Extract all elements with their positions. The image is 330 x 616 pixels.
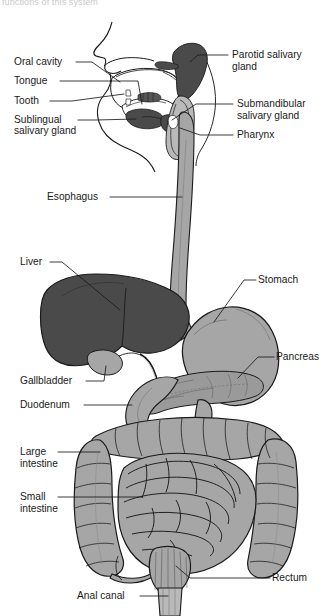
label-submandibular-line1: Submandibular <box>237 98 306 109</box>
label-sublingual-line1: Sublingual <box>14 114 62 125</box>
label-anal-canal: Anal canal <box>77 590 125 601</box>
label-stomach: Stomach <box>258 274 298 285</box>
label-parotid-line1: Parotid salivary <box>232 49 303 60</box>
liver-shape <box>41 274 190 366</box>
label-tongue: Tongue <box>14 75 48 86</box>
label-large-intestine-line1: Large <box>20 446 46 457</box>
gallbladder-group <box>87 350 142 375</box>
neck-back-outline <box>196 148 202 166</box>
parotid-salivary-gland-shape <box>172 43 207 99</box>
tooth-upper-shape <box>126 90 131 96</box>
label-oral-cavity: Oral cavity <box>14 56 63 67</box>
anatomy-illustration: Oral cavity Tongue Tooth Sublingual sali… <box>0 0 330 616</box>
label-liver: Liver <box>20 256 43 267</box>
cystic-duct-line <box>119 353 142 356</box>
label-duodenum: Duodenum <box>20 399 70 410</box>
upper-lip-outline <box>104 58 154 66</box>
label-sublingual-line2: salivary gland <box>14 125 77 136</box>
label-pharynx: Pharynx <box>237 129 274 140</box>
label-rectum: Rectum <box>272 572 307 583</box>
descending-colon-shape <box>74 440 123 577</box>
liver-group <box>41 274 190 366</box>
label-small-intestine-line1: Small <box>20 491 45 502</box>
label-parotid-line2: gland <box>232 61 257 72</box>
digestive-system-figure: functions of this system <box>0 0 330 616</box>
label-pancreas: Pancreas <box>276 351 319 362</box>
label-gallbladder: Gallbladder <box>20 375 73 386</box>
rectum-group <box>149 547 190 591</box>
label-small-intestine-line2: intestine <box>20 503 58 514</box>
label-submandibular-line2: salivary gland <box>237 110 300 121</box>
tooth-lower-shape <box>126 99 131 105</box>
anal-canal-shape <box>158 588 182 616</box>
chin-neck-outline <box>142 156 155 172</box>
label-tooth: Tooth <box>14 95 39 106</box>
label-large-intestine-line2: intestine <box>20 458 58 469</box>
label-esophagus: Esophagus <box>47 191 98 202</box>
anal-canal-group <box>158 588 182 616</box>
cut-off-caption-text: functions of this system <box>2 0 202 9</box>
